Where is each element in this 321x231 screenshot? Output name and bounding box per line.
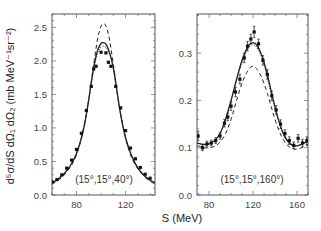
dotted-curve — [197, 45, 308, 146]
data-point — [238, 78, 241, 81]
data-point — [85, 109, 88, 112]
y-tick-label: 2.0 — [34, 55, 47, 66]
y-tick-label: 0.0 — [179, 190, 192, 201]
data-point — [119, 106, 122, 109]
data-point — [214, 139, 217, 142]
figure: 801200.00.51.01.52.02.5(15°,15°,40°) 801… — [0, 0, 321, 231]
x-tick-label: 120 — [118, 199, 134, 210]
data-point — [266, 73, 269, 76]
data-point — [201, 146, 204, 149]
y-tick-label: 0.3 — [179, 48, 192, 59]
data-point — [275, 108, 278, 111]
data-point — [148, 177, 151, 180]
plot-frame — [197, 14, 308, 195]
data-point — [104, 51, 107, 54]
solid-curve — [52, 43, 155, 184]
data-point — [297, 137, 300, 140]
x-tick-label: 80 — [71, 199, 82, 210]
dashed-curve — [52, 23, 155, 184]
y-tick-label: 1.0 — [34, 122, 47, 133]
data-point — [246, 45, 249, 48]
data-point — [114, 85, 117, 88]
x-axis-title: S (MeV) — [162, 212, 202, 224]
data-point — [288, 139, 291, 142]
angle-annotation: (15°,15°,40°) — [75, 174, 133, 185]
data-point — [234, 90, 237, 93]
data-point — [107, 61, 110, 64]
dotted-curve — [52, 46, 155, 183]
y-tick-label: 0.5 — [34, 156, 47, 167]
data-point — [257, 42, 260, 45]
y-tick-label: 2.5 — [34, 22, 47, 33]
angle-annotation: (15°,15°,160°) — [220, 174, 283, 185]
x-tick-label: 160 — [289, 199, 305, 210]
data-point — [249, 37, 252, 40]
data-point — [75, 148, 78, 151]
data-point — [55, 178, 58, 181]
data-point — [95, 65, 98, 68]
data-point — [99, 51, 102, 54]
y-tick-label: 0.0 — [34, 190, 47, 201]
data-point — [229, 105, 232, 108]
data-point — [270, 94, 273, 97]
y-tick-label: 0.2 — [179, 95, 192, 106]
data-point — [144, 173, 147, 176]
x-tick-label: 80 — [204, 199, 215, 210]
data-point — [109, 65, 112, 68]
dashed-curve — [197, 66, 308, 149]
data-point — [60, 173, 63, 176]
data-point — [205, 142, 208, 145]
data-point — [283, 132, 286, 135]
y-tick-label: 1.5 — [34, 89, 47, 100]
right-panel: 801201600.00.10.20.3(15°,15°,160°) — [179, 14, 309, 210]
data-point — [253, 30, 256, 33]
data-point — [218, 134, 221, 137]
y-axis-title: d⁵σ/dS dΩ₁ dΩ₂ (mb MeV⁻¹sr⁻²) — [4, 28, 16, 185]
data-point — [139, 166, 142, 169]
data-point — [210, 141, 213, 144]
left-panel: 801200.00.51.01.52.02.5(15°,15°,40°) — [34, 14, 155, 210]
data-point — [223, 122, 226, 125]
data-point — [70, 159, 73, 162]
data-point — [226, 115, 229, 118]
y-tick-label: 0.1 — [179, 142, 192, 153]
data-point — [90, 85, 93, 88]
data-point — [301, 141, 304, 144]
data-point — [80, 132, 83, 135]
data-point — [292, 144, 295, 147]
solid-curve — [197, 43, 308, 146]
data-point — [129, 146, 132, 149]
data-point — [124, 129, 127, 132]
data-point — [65, 167, 68, 170]
data-point — [279, 123, 282, 126]
data-point — [243, 56, 246, 59]
data-point — [261, 59, 264, 62]
x-tick-label: 120 — [245, 199, 261, 210]
data-point — [134, 157, 137, 160]
data-point — [50, 180, 53, 183]
